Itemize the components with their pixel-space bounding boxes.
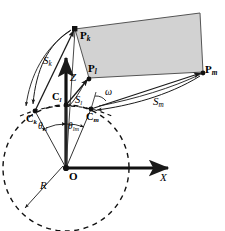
point-marker-cl (64, 103, 69, 108)
label-angle-theta-kl: θkl (38, 122, 47, 132)
label-radius-r: R (40, 180, 47, 191)
sk-leader-arc-2 (26, 31, 70, 106)
ray-origin-to-ck (35, 111, 66, 168)
theta-kl-arc (46, 124, 66, 128)
label-distance-sm: Sm (153, 96, 164, 109)
label-point-cm: Cm (86, 112, 99, 124)
label-angle-theta-lm: θlm (68, 122, 79, 132)
point-marker-pl (87, 77, 92, 82)
label-angle-omega: ω (105, 87, 112, 97)
label-point-pl: Pl (88, 63, 97, 76)
label-point-ck: Ck (26, 114, 37, 126)
label-axis-x: X (160, 172, 167, 183)
label-point-pk: Pk (80, 30, 90, 43)
label-axis-z: Z (70, 72, 76, 83)
label-point-pm: Pm (205, 64, 217, 77)
label-point-cl: Cl (52, 92, 62, 104)
omega-upper-ray (91, 92, 96, 109)
label-distance-sk: Sk (43, 55, 52, 68)
label-origin-o: O (69, 171, 78, 182)
point-marker-pk (72, 26, 77, 31)
label-distance-sl: Sl (75, 95, 82, 107)
geometry-figure: Pk Pl Pm Ck Cl Cm Sk Sl Sm R θkl θlm ω Z… (0, 0, 225, 231)
